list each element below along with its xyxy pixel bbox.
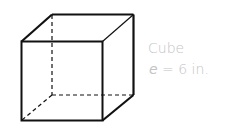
cube-visible-edges [22,15,134,121]
top-right-edge [103,15,134,42]
edge-length-label: e = 6 in. [149,62,209,76]
top-left-edge [22,15,53,42]
edge-value: 6 in. [178,61,209,77]
front-face [22,42,103,121]
cube-hidden-edges [22,15,133,120]
bottom-right-edge [103,95,134,121]
hidden-edge-diagonal [22,95,52,120]
shape-name-label: Cube [148,41,184,55]
equals-sign: = [158,61,179,77]
edge-variable: e [149,61,158,77]
